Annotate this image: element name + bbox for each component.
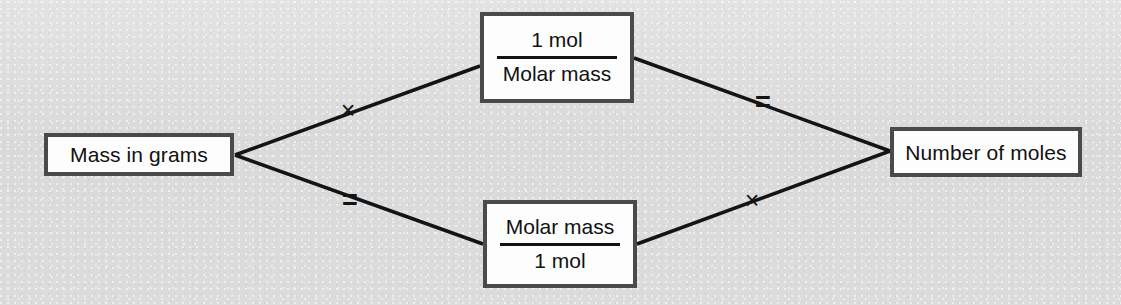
fraction-bottom-denominator: 1 mol (530, 249, 589, 274)
fraction-top-denominator: Molar mass (499, 62, 616, 87)
connector-mass-to-fraction-top (235, 66, 480, 155)
equals-operator-upper-right: = (755, 89, 771, 116)
fraction-bottom-numerator: Molar mass (502, 215, 619, 240)
node-fraction-one-mol-over-molar-mass: 1 mol Molar mass (480, 12, 634, 103)
fraction-top: 1 mol Molar mass (497, 28, 617, 87)
multiply-operator-upper-left: × (341, 98, 356, 123)
multiply-operator-lower-right: × (745, 188, 760, 213)
fraction-bottom-bar (500, 243, 620, 246)
fraction-top-numerator: 1 mol (527, 28, 586, 53)
connector-fraction-bottom-to-moles (637, 151, 890, 244)
fraction-top-bar (497, 56, 617, 59)
connector-mass-to-fraction-bottom (235, 155, 483, 244)
fraction-bottom: Molar mass 1 mol (500, 215, 620, 274)
node-mass-in-grams-label: Mass in grams (70, 144, 208, 165)
node-number-of-moles: Number of moles (890, 127, 1082, 177)
equals-operator-lower-left: = (342, 187, 358, 214)
mole-conversion-diagram: Mass in grams 1 mol Molar mass Molar mas… (0, 0, 1121, 305)
node-fraction-molar-mass-over-one-mol: Molar mass 1 mol (483, 200, 637, 288)
node-mass-in-grams: Mass in grams (44, 133, 234, 176)
node-number-of-moles-label: Number of moles (905, 142, 1066, 163)
